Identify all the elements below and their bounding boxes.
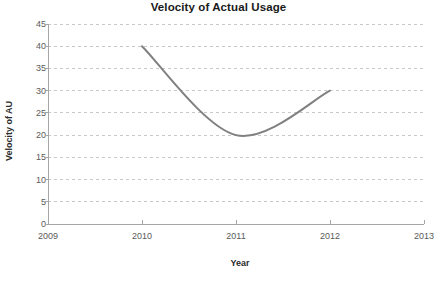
x-axis-tick-label: 2012	[307, 231, 353, 242]
x-axis-tick-label: 2013	[401, 231, 437, 242]
gridlines	[48, 24, 424, 202]
x-axis-tick-label: 2009	[25, 231, 71, 242]
axis-lines	[48, 24, 424, 224]
x-axis-tick-label: 2010	[119, 231, 165, 242]
x-axis-tick-label: 2011	[213, 231, 259, 242]
x-axis-ticks	[48, 220, 424, 224]
chart-container: Velocity of Actual Usage Velocity of AU …	[0, 0, 437, 283]
